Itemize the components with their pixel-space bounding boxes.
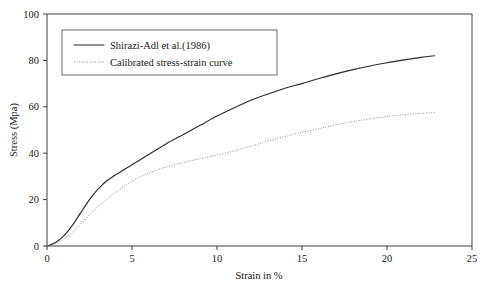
x-tick-label: 5 <box>129 253 134 264</box>
data-series-group <box>47 56 435 246</box>
chart-legend: Shirazi-Adl et al.(1986) Calibrated stre… <box>62 30 277 75</box>
x-tick-label: 10 <box>212 253 223 264</box>
legend-label-calibrated: Calibrated stress-strain curve <box>110 57 233 68</box>
y-tick-label: 0 <box>34 241 39 252</box>
y-tick-label: 40 <box>29 148 40 159</box>
stress-strain-chart: 020406080100 0510152025 Stress (Mpa) Str… <box>0 0 492 289</box>
x-tick-label: 15 <box>297 253 308 264</box>
y-tick-label: 80 <box>29 55 40 66</box>
chart-figure: 020406080100 0510152025 Stress (Mpa) Str… <box>0 0 492 289</box>
series-shirazi-adl <box>47 56 435 246</box>
x-tick-label: 25 <box>467 253 478 264</box>
y-tick-label: 20 <box>29 194 40 205</box>
x-axis-ticks: 0510152025 <box>44 246 477 264</box>
y-tick-label: 60 <box>29 101 40 112</box>
series-calibrated <box>47 113 435 246</box>
y-axis-ticks: 020406080100 <box>23 9 47 252</box>
legend-box <box>62 30 277 75</box>
x-tick-label: 20 <box>382 253 393 264</box>
x-axis-title: Strain in % <box>235 270 282 281</box>
y-axis-title: Stress (Mpa) <box>8 103 20 157</box>
y-tick-label: 100 <box>23 9 39 20</box>
legend-label-shirazi-adl: Shirazi-Adl et al.(1986) <box>110 40 211 52</box>
x-tick-label: 0 <box>44 253 49 264</box>
